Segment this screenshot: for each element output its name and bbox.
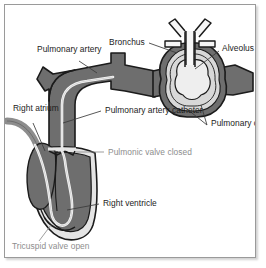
pulmonary-artery-trunk bbox=[49, 53, 155, 151]
vena-cava bbox=[7, 121, 37, 145]
label-right-atrium: Right atrium bbox=[13, 104, 57, 113]
label-tricuspid-valve-open: Tricuspid valve open bbox=[12, 242, 76, 251]
label-bronchus: Bronchus bbox=[109, 38, 145, 47]
figure-frame: Pulmonary artery Bronchus Alveolus Right… bbox=[4, 4, 256, 258]
label-pulmonic-valve-closed: Pulmonic valve closed bbox=[108, 148, 158, 157]
leader-tricuspid-valve bbox=[39, 225, 51, 241]
alveolus-sac bbox=[175, 60, 210, 100]
label-pulmonary-artery: Pulmonary artery bbox=[37, 45, 102, 54]
label-right-ventricle: Right ventricle bbox=[103, 199, 155, 208]
label-pulmonary-circulation: Pulmonary circulation bbox=[211, 119, 256, 128]
label-alveolus: Alveolus bbox=[222, 44, 254, 53]
alveolus-complex bbox=[159, 19, 226, 117]
label-pulmonary-artery-catheter: Pulmonary artery catheter bbox=[105, 106, 167, 115]
